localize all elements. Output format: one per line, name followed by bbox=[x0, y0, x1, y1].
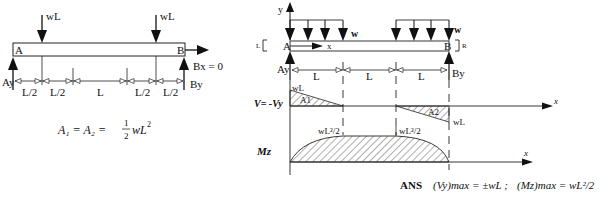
distributed-load-2-label: w bbox=[454, 24, 462, 35]
moment-value-1: wL²/2 bbox=[318, 126, 340, 136]
answer-vy: (Vy)max = ±wL ; bbox=[433, 179, 508, 192]
shear-area-2-label: A2 bbox=[428, 107, 439, 117]
area-equation-frac-den: 2 bbox=[124, 131, 129, 141]
answer-prefix: ANS bbox=[400, 179, 422, 191]
moment-curve bbox=[290, 136, 449, 162]
left-beam bbox=[13, 43, 185, 56]
dim-1: L/2 bbox=[22, 86, 37, 98]
dim-4: L/2 bbox=[135, 86, 150, 98]
bx-label: Bx = 0 bbox=[193, 60, 224, 72]
dim-2: L/2 bbox=[50, 86, 65, 98]
shear-area-1-label: A1 bbox=[300, 95, 311, 105]
point-load-1-label: wL bbox=[46, 10, 61, 22]
cut-right-label: R bbox=[462, 42, 467, 50]
shear-x-arrow-icon bbox=[542, 103, 553, 110]
area-equation-frac-num: 1 bbox=[124, 118, 129, 128]
right-point-a-label: A bbox=[283, 40, 291, 52]
moment-axis-label: Mz bbox=[256, 145, 272, 157]
moment-x-arrow-icon bbox=[522, 159, 533, 166]
point-a-label: A bbox=[15, 44, 23, 56]
point-b-label: B bbox=[177, 44, 184, 56]
shear-peak-right: wL bbox=[453, 117, 465, 127]
distributed-load-2-icon bbox=[391, 20, 454, 41]
cut-right-bracket-icon bbox=[455, 40, 459, 51]
dim-3: L bbox=[97, 86, 104, 98]
cut-left-label: L bbox=[256, 42, 260, 50]
moment-value-2: wL²/2 bbox=[399, 126, 421, 136]
beam-diagram: wL wL A B Bx = 0 Ay By bbox=[0, 0, 615, 198]
area-equation-exp: 2 bbox=[147, 120, 151, 129]
cut-left-bracket-icon bbox=[263, 40, 267, 51]
shear-axis-label: V= -Vy bbox=[254, 98, 283, 109]
answer-mz: (Mz)max = wL²/2 bbox=[517, 179, 595, 192]
x-axis-label: x bbox=[327, 41, 332, 51]
y-axis-label: y bbox=[278, 4, 283, 15]
by-arrow-icon bbox=[179, 57, 189, 90]
ay-label: Ay bbox=[2, 76, 15, 88]
shear-area-2 bbox=[396, 106, 449, 122]
right-beam-figure: y w w bbox=[254, 2, 595, 192]
area-equation-rhs: wL bbox=[132, 123, 147, 137]
right-dim-1: L bbox=[313, 70, 320, 82]
dim-5: L/2 bbox=[163, 86, 178, 98]
point-load-2-label: wL bbox=[160, 10, 175, 22]
distributed-load-1-label: w bbox=[351, 28, 359, 39]
moment-x-label: x bbox=[523, 148, 528, 158]
right-by-label: By bbox=[452, 67, 465, 79]
shear-x-label: x bbox=[553, 96, 558, 106]
right-ay-label: Ay bbox=[277, 63, 290, 75]
by-label: By bbox=[190, 78, 203, 90]
left-beam-figure: wL wL A B Bx = 0 Ay By bbox=[2, 10, 224, 141]
right-dim-2: L bbox=[366, 70, 373, 82]
distributed-load-1-icon bbox=[285, 20, 348, 41]
area-equation-lhs: A₁ = A₂ = bbox=[57, 123, 106, 137]
shear-peak-left: wL bbox=[292, 83, 304, 93]
right-dim-3: L bbox=[418, 70, 425, 82]
right-point-b-label: B bbox=[444, 40, 451, 52]
bx-arrow-icon bbox=[185, 45, 209, 55]
